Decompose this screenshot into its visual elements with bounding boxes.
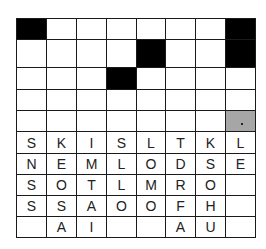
- letter-bank-cell: S: [16, 174, 47, 196]
- answer-cell[interactable]: [195, 67, 226, 90]
- answer-cell[interactable]: [106, 89, 137, 111]
- answer-cell[interactable]: [76, 39, 107, 68]
- letter-bank-cell: O: [106, 195, 137, 217]
- letter-bank-cell: [225, 216, 256, 238]
- letter-bank-cell: K: [195, 131, 226, 154]
- letter-bank-cell: E: [225, 153, 256, 175]
- letter-bank-cell: S: [46, 195, 77, 217]
- black-cell: [225, 18, 256, 40]
- answer-cell[interactable]: [76, 67, 107, 90]
- letter-bank-cell: A: [76, 195, 107, 217]
- answer-cell[interactable]: [195, 39, 226, 68]
- answer-cell[interactable]: [76, 18, 107, 40]
- answer-cell[interactable]: [106, 18, 137, 40]
- letter-bank-cell: K: [46, 131, 77, 154]
- letter-bank-cell: [225, 195, 256, 217]
- letter-bank-cell: D: [165, 153, 196, 175]
- letter-bank-cell: L: [106, 174, 137, 196]
- letter-bank-cell: M: [136, 174, 166, 196]
- letter-bank-cell: O: [46, 174, 77, 196]
- letter-bank-cell: M: [76, 153, 107, 175]
- black-cell: [106, 67, 137, 90]
- answer-cell[interactable]: [195, 18, 226, 40]
- answer-cell[interactable]: [76, 89, 107, 111]
- answer-cell[interactable]: [106, 110, 137, 132]
- answer-cell[interactable]: [76, 110, 107, 132]
- answer-cell[interactable]: [165, 18, 196, 40]
- letter-bank-cell: O: [136, 195, 166, 217]
- answer-cell[interactable]: [46, 67, 77, 90]
- answer-cell[interactable]: [195, 89, 226, 111]
- dot-marker-icon: [241, 123, 243, 125]
- black-cell: [225, 39, 256, 68]
- letter-bank-cell: N: [16, 153, 47, 175]
- answer-cell[interactable]: [106, 39, 137, 68]
- letter-bank-cell: L: [136, 131, 166, 154]
- puzzle-grid: SKISLTKLNEMLODSESOTLMROSSAOOFHAIAU: [0, 0, 266, 249]
- letter-bank-cell: T: [76, 174, 107, 196]
- black-cell: [136, 39, 166, 68]
- answer-cell[interactable]: [136, 18, 166, 40]
- answer-cell[interactable]: [136, 67, 166, 90]
- answer-cell[interactable]: [16, 110, 47, 132]
- answer-cell[interactable]: [46, 39, 77, 68]
- letter-bank-cell: [225, 174, 256, 196]
- letter-bank-cell: O: [136, 153, 166, 175]
- answer-cell[interactable]: [16, 39, 47, 68]
- answer-cell[interactable]: [225, 89, 256, 111]
- answer-cell[interactable]: [136, 89, 166, 111]
- answer-cell[interactable]: [46, 89, 77, 111]
- letter-bank-cell: S: [106, 131, 137, 154]
- answer-cell[interactable]: [225, 67, 256, 90]
- letter-bank-cell: S: [16, 131, 47, 154]
- letter-bank-cell: [106, 216, 137, 238]
- gray-cell[interactable]: [225, 110, 256, 132]
- letter-bank-cell: S: [16, 195, 47, 217]
- letter-bank-cell: A: [46, 216, 77, 238]
- answer-cell[interactable]: [165, 39, 196, 68]
- letter-bank-cell: I: [76, 216, 107, 238]
- answer-cell[interactable]: [165, 110, 196, 132]
- letter-bank-cell: T: [165, 131, 196, 154]
- letter-bank-cell: L: [106, 153, 137, 175]
- letter-bank-cell: L: [225, 131, 256, 154]
- letter-bank-cell: H: [195, 195, 226, 217]
- answer-cell[interactable]: [46, 18, 77, 40]
- answer-cell[interactable]: [165, 89, 196, 111]
- answer-cell[interactable]: [16, 89, 47, 111]
- letter-bank-cell: S: [195, 153, 226, 175]
- letter-bank-cell: [16, 216, 47, 238]
- black-cell: [16, 18, 47, 40]
- letter-bank-cell: F: [165, 195, 196, 217]
- letter-bank-cell: R: [165, 174, 196, 196]
- answer-cell[interactable]: [46, 110, 77, 132]
- answer-cell[interactable]: [165, 67, 196, 90]
- answer-cell[interactable]: [16, 67, 47, 90]
- answer-cell[interactable]: [195, 110, 226, 132]
- letter-bank-cell: I: [76, 131, 107, 154]
- letter-bank-cell: U: [195, 216, 226, 238]
- letter-bank-cell: [136, 216, 166, 238]
- letter-bank-cell: O: [195, 174, 226, 196]
- letter-bank-cell: A: [165, 216, 196, 238]
- letter-bank-cell: E: [46, 153, 77, 175]
- answer-cell[interactable]: [136, 110, 166, 132]
